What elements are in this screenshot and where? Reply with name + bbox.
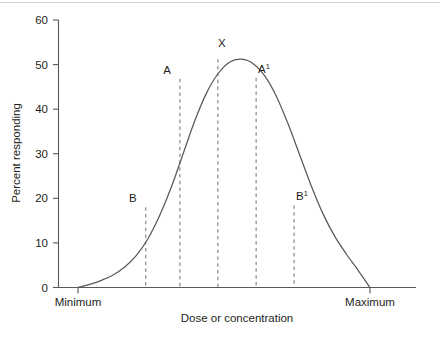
y-tick-label: 30 (35, 148, 48, 160)
annotation-dashed-lines (146, 59, 294, 287)
point-label-A: A (163, 64, 171, 76)
y-axis-ticks (53, 20, 59, 288)
y-tick-label: 20 (35, 192, 48, 204)
dose-response-curve (78, 59, 370, 287)
x-tick-label: Minimum (55, 296, 102, 308)
x-tick-label: Maximum (345, 296, 395, 308)
point-label-X: X (218, 37, 226, 49)
y-axis-title: Percent responding (10, 103, 22, 203)
point-label-A1: A1 (258, 62, 270, 75)
point-label-B: B (129, 192, 137, 204)
y-axis-tick-labels: 0102030405060 (35, 14, 48, 294)
y-tick-label: 0 (42, 282, 48, 294)
point-label-B1: B1 (296, 189, 308, 202)
chart-svg: 0102030405060 MinimumMaximum BAXA1B1 Dos… (0, 0, 440, 337)
annotation-labels: BAXA1B1 (129, 37, 308, 204)
x-axis-ticks (78, 288, 370, 294)
y-tick-label: 60 (35, 14, 48, 26)
chart-figure: 0102030405060 MinimumMaximum BAXA1B1 Dos… (0, 0, 440, 337)
x-axis-tick-labels: MinimumMaximum (55, 296, 395, 308)
y-tick-label: 40 (35, 103, 48, 115)
y-tick-label: 50 (35, 59, 48, 71)
y-tick-label: 10 (35, 237, 48, 249)
x-axis-title: Dose or concentration (181, 312, 294, 324)
